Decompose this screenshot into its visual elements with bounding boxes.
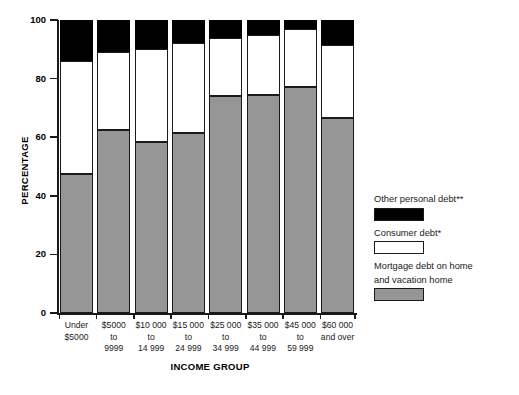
x-axis-category-line: and over [311,332,365,344]
bar-segment-other[interactable] [321,20,354,45]
bar-segment-mortgage[interactable] [97,130,130,313]
stacked-bar-chart: PERCENTAGE 020406080100 INCOME GROUP Oth… [0,0,519,395]
bar-segment-mortgage[interactable] [135,142,168,313]
x-axis-tick [208,313,210,319]
y-axis-tick-labels: 020406080100 [0,0,46,320]
bar-segment-other[interactable] [97,20,130,52]
bar-segment-other[interactable] [60,20,93,61]
legend-label: Mortgage debt on home [374,261,514,273]
x-axis-tick [320,313,322,319]
x-axis-title: INCOME GROUP [135,361,285,372]
y-axis-tick [50,195,58,197]
x-axis-category-line: 59 999 [273,343,327,355]
bar-segment-other[interactable] [135,20,168,49]
bar-segment-consumer[interactable] [321,45,354,118]
bar[interactable] [284,20,317,313]
y-axis-tick-label: 40 [12,191,46,201]
legend-entry[interactable]: Mortgage debt on homeand vacation home [374,261,514,301]
chart-legend: Other personal debt**Consumer debt*Mortg… [374,194,514,308]
x-axis-tick [282,313,284,319]
y-axis-line [57,20,59,314]
x-axis-tick [133,313,135,319]
bar-segment-mortgage[interactable] [247,95,280,313]
x-axis-tick [96,313,98,319]
bar-segment-mortgage[interactable] [172,133,205,313]
x-axis-tick [245,313,247,319]
bar-segment-consumer[interactable] [97,52,130,130]
bar-segment-consumer[interactable] [247,35,280,95]
bar-segment-consumer[interactable] [172,43,205,132]
bar-segment-consumer[interactable] [135,49,168,141]
legend-label: Other personal debt** [374,194,514,206]
x-axis-category-line: $60 000 [311,320,365,332]
bar[interactable] [172,20,205,313]
bar[interactable] [247,20,280,313]
black-swatch-icon [374,208,424,221]
y-axis-tick [50,19,58,21]
white-swatch-icon [374,241,424,254]
x-axis-tick [59,313,61,319]
y-axis-tick-label: 100 [12,15,46,25]
legend-entry[interactable]: Other personal debt** [374,194,514,221]
bar-segment-other[interactable] [247,20,280,35]
bar[interactable] [97,20,130,313]
bar-segment-consumer[interactable] [284,29,317,88]
legend-entry[interactable]: Consumer debt* [374,228,514,255]
legend-label: and vacation home [374,275,514,287]
legend-label: Consumer debt* [374,228,514,240]
y-axis-tick-label: 80 [12,74,46,84]
bar[interactable] [60,20,93,313]
bar-segment-mortgage[interactable] [284,87,317,313]
bar-segment-consumer[interactable] [209,38,242,97]
bar-segment-mortgage[interactable] [321,118,354,313]
y-axis-tick [50,78,58,80]
bar-segment-mortgage[interactable] [60,174,93,313]
y-axis-tick-label: 20 [12,249,46,259]
bar[interactable] [209,20,242,313]
bar[interactable] [321,20,354,313]
bar[interactable] [135,20,168,313]
bar-segment-consumer[interactable] [60,61,93,174]
bar-segment-other[interactable] [284,20,317,29]
y-axis-tick [50,136,58,138]
y-axis-tick-label: 60 [12,132,46,142]
gray-swatch-icon [374,288,424,301]
y-axis-tick [50,312,58,314]
x-axis-tick [170,313,172,319]
y-axis-tick-label: 0 [12,308,46,318]
y-axis-tick [50,254,58,256]
x-axis-tick [354,313,356,319]
bar-segment-mortgage[interactable] [209,96,242,313]
bar-segment-other[interactable] [172,20,205,43]
bar-segment-other[interactable] [209,20,242,38]
x-axis-category-label: $60 000and over [311,320,365,343]
